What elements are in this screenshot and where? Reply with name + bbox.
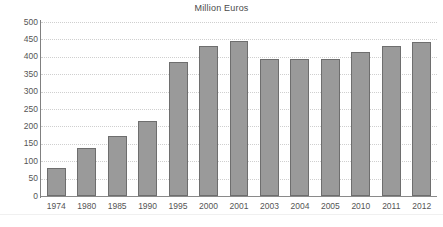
x-tick-label-1980: 1980 (71, 200, 101, 212)
y-tick-label: 250 (4, 105, 38, 114)
y-tick-label: 350 (4, 70, 38, 79)
bar-1985[interactable] (108, 136, 127, 196)
x-tick-label-2005: 2005 (315, 200, 345, 212)
x-tick-label-2010: 2010 (346, 200, 376, 212)
x-tick-label-2003: 2003 (254, 200, 284, 212)
y-tick-label: 200 (4, 122, 38, 131)
y-tick-label: 50 (4, 174, 38, 183)
bar-1995[interactable] (169, 62, 188, 196)
bar-1990[interactable] (138, 121, 157, 196)
gridline (41, 22, 437, 23)
y-tick-label: 100 (4, 157, 38, 166)
bar-2001[interactable] (230, 41, 249, 196)
bar-2003[interactable] (260, 59, 279, 196)
y-tick-label: 300 (4, 87, 38, 96)
x-tick-label-2000: 2000 (193, 200, 223, 212)
y-tick-label: 400 (4, 52, 38, 61)
x-tick-label-2001: 2001 (224, 200, 254, 212)
x-tick-label-1995: 1995 (163, 200, 193, 212)
figure-bottom-rule (0, 214, 443, 215)
plot-area (41, 22, 437, 196)
bar-2010[interactable] (351, 52, 370, 196)
bar-1980[interactable] (77, 148, 96, 196)
bar-chart-figure: Million Euros 50045040035030025020015010… (0, 0, 443, 227)
bar-2004[interactable] (290, 59, 309, 196)
bar-2005[interactable] (321, 59, 340, 196)
x-tick-label-2012: 2012 (407, 200, 437, 212)
x-tick-label-2004: 2004 (285, 200, 315, 212)
y-axis-line (40, 20, 41, 198)
x-tick-label-1974: 1974 (41, 200, 71, 212)
y-tick-label: 150 (4, 139, 38, 148)
bar-2000[interactable] (199, 46, 218, 196)
bar-2011[interactable] (382, 46, 401, 196)
y-axis-tick-labels: 500450400350300250200150100500 (0, 0, 38, 227)
chart-title: Million Euros (0, 3, 443, 13)
x-axis-line (41, 196, 437, 197)
y-tick-label: 450 (4, 35, 38, 44)
y-tick-label: 0 (4, 192, 38, 201)
bar-2012[interactable] (412, 42, 431, 196)
x-tick-label-2011: 2011 (376, 200, 406, 212)
x-tick-label-1990: 1990 (132, 200, 162, 212)
bar-1974[interactable] (47, 168, 66, 196)
y-tick-label: 500 (4, 18, 38, 27)
x-tick-label-1985: 1985 (102, 200, 132, 212)
